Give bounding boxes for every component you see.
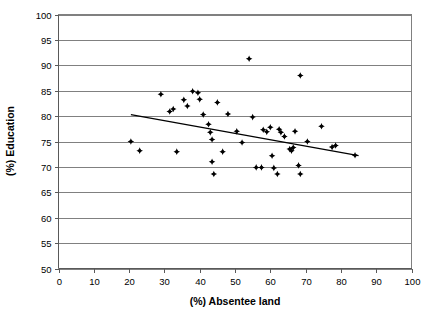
x-tick-label: 20 (124, 276, 135, 287)
marker-core (235, 130, 238, 133)
marker-core (297, 164, 300, 167)
marker-core (276, 172, 279, 175)
y-tick-label: 100 (36, 10, 52, 21)
marker-core (331, 146, 334, 149)
x-tick-label: 80 (336, 276, 347, 287)
marker-core (212, 172, 215, 175)
marker-core (269, 126, 272, 129)
marker-core (272, 166, 275, 169)
x-tick-label: 100 (405, 276, 421, 287)
y-tick-label: 50 (41, 264, 52, 275)
marker-core (172, 107, 175, 110)
marker-core (251, 116, 254, 119)
marker-core (271, 154, 274, 157)
marker-core (320, 125, 323, 128)
y-tick-label: 60 (41, 213, 52, 224)
marker-core (241, 141, 244, 144)
marker-core (209, 131, 212, 134)
marker-core (159, 93, 162, 96)
marker-core (306, 140, 309, 143)
marker-core (248, 57, 251, 60)
marker-core (211, 160, 214, 163)
marker-core (175, 150, 178, 153)
x-tick-label: 40 (195, 276, 206, 287)
marker-core (191, 90, 194, 93)
x-axis-title: (%) Absentee land (190, 295, 281, 307)
x-tick-label: 50 (230, 276, 241, 287)
x-tick-label: 10 (89, 276, 100, 287)
y-tick-label: 70 (41, 162, 52, 173)
marker-core (283, 135, 286, 138)
marker-core (196, 91, 199, 94)
marker-core (186, 104, 189, 107)
chart-background (0, 0, 430, 325)
marker-core (216, 101, 219, 104)
x-tick-label: 30 (159, 276, 170, 287)
y-tick-label: 95 (41, 35, 52, 46)
x-tick-label: 0 (57, 276, 62, 287)
marker-core (278, 128, 281, 131)
marker-core (299, 74, 302, 77)
marker-core (202, 113, 205, 116)
marker-core (211, 138, 214, 141)
marker-core (129, 140, 132, 143)
marker-core (255, 166, 258, 169)
marker-core (198, 98, 201, 101)
marker-core (221, 150, 224, 153)
x-tick-label: 60 (265, 276, 276, 287)
chart-canvas: 50556065707580859095100 0102030405060708… (0, 0, 430, 325)
x-tick-label: 90 (371, 276, 382, 287)
y-tick-label: 75 (41, 137, 52, 148)
marker-core (293, 130, 296, 133)
scatter-chart: 50556065707580859095100 0102030405060708… (0, 0, 430, 325)
marker-core (279, 131, 282, 134)
marker-core (292, 146, 295, 149)
marker-core (260, 166, 263, 169)
y-tick-label: 80 (41, 111, 52, 122)
y-axis-title: (%) Education (4, 106, 16, 176)
marker-core (207, 123, 210, 126)
y-tick-label: 55 (41, 238, 52, 249)
marker-core (138, 149, 141, 152)
y-tick-label: 90 (41, 60, 52, 71)
marker-core (290, 149, 293, 152)
marker-core (168, 110, 171, 113)
marker-core (265, 130, 268, 133)
x-tick-label: 70 (301, 276, 312, 287)
marker-core (262, 128, 265, 131)
marker-core (226, 113, 229, 116)
marker-core (299, 172, 302, 175)
marker-core (334, 144, 337, 147)
marker-core (182, 98, 185, 101)
y-tick-label: 85 (41, 86, 52, 97)
y-tick-label: 65 (41, 187, 52, 198)
